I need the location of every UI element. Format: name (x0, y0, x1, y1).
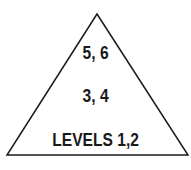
pyramid-level-middle: 3, 4 (17, 86, 174, 106)
pyramid-level-bottom: LEVELS 1,2 (17, 130, 174, 150)
pyramid-level-top: 5, 6 (17, 43, 174, 63)
